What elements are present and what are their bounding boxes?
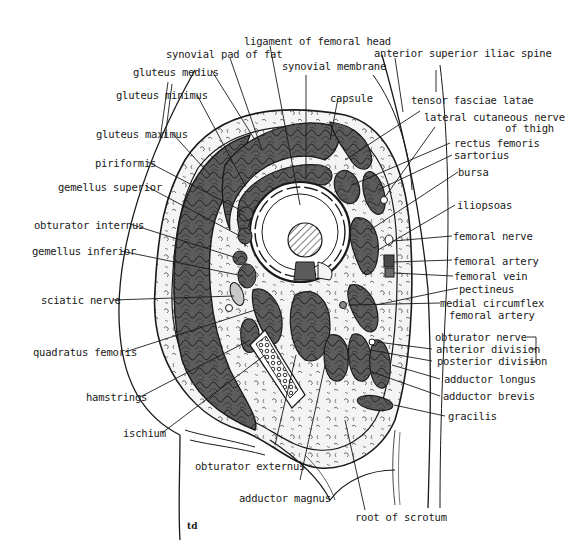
label-sartorius: sartorius	[454, 149, 509, 161]
label-pectineus: pectineus	[459, 283, 514, 295]
label-synovial-pad-of-fat: synovial pad of fat	[166, 48, 282, 60]
label-synovial-membrane: synovial membrane	[282, 60, 386, 72]
label-gluteus-maximus: gluteus maximus	[96, 128, 188, 140]
label-femoral-artery: femoral artery	[453, 255, 539, 267]
anatomy-diagram: ligament of femoral head synovial pad of…	[0, 0, 573, 559]
label-obturator-nerve: obturator nerve	[435, 331, 527, 343]
label-gemellus-superior: gemellus superior	[58, 181, 162, 193]
adductor-magnus-muscle	[324, 335, 348, 382]
label-gluteus-medius: gluteus medius	[133, 66, 219, 78]
label-posterior-division: posterior division	[437, 355, 547, 367]
label-bursa: bursa	[458, 166, 489, 178]
label-medial-circumflex-femoral-artery: femoral artery	[449, 309, 535, 321]
label-capsule: capsule	[330, 92, 373, 104]
label-sciatic-nerve: sciatic nerve	[41, 294, 121, 306]
label-anterior-superior-iliac-spine: anterior superior iliac spine	[374, 47, 552, 59]
label-ischium: ischium	[123, 427, 166, 439]
label-of-thigh: of thigh	[505, 122, 554, 134]
label-adductor-brevis: adductor brevis	[443, 390, 535, 402]
gemellus-inferior-muscle	[238, 264, 256, 288]
label-adductor-magnus: adductor magnus	[239, 492, 331, 504]
label-obturator-externus: obturator externus	[195, 460, 305, 472]
label-medial-circumflex: medial circumflex	[440, 297, 544, 309]
label-quadratus-femoris: quadratus femoris	[33, 346, 137, 358]
gemellus-superior-muscle	[238, 228, 252, 244]
label-root-of-scrotum: root of scrotum	[355, 511, 447, 523]
label-femoral-nerve: femoral nerve	[453, 230, 533, 242]
label-adductor-longus: adductor longus	[444, 373, 536, 385]
label-rectus-femoris: rectus femoris	[454, 137, 540, 149]
piriformis-muscle	[239, 207, 253, 221]
femoral-head	[288, 223, 322, 257]
obturator-internus-muscle	[233, 251, 247, 265]
label-femoral-vein: femoral vein	[454, 270, 527, 282]
label-obturator-internus: obturator internus	[34, 219, 144, 231]
label-hamstrings: hamstrings	[86, 391, 147, 403]
label-gracilis: gracilis	[448, 410, 497, 422]
label-iliopsoas: iliopsoas	[457, 199, 512, 211]
femoral-vein	[385, 268, 394, 277]
label-gemellus-inferior: gemellus inferior	[32, 245, 136, 257]
label-piriformis: piriformis	[95, 157, 156, 169]
label-anterior-division: anterior division	[436, 343, 540, 355]
femoral-artery	[384, 255, 394, 267]
label-tensor-fasciae-latae: tensor fasciae latae	[411, 94, 533, 106]
artist-signature: td	[187, 521, 197, 531]
label-ligament-of-femoral-head: ligament of femoral head	[244, 35, 391, 47]
label-gluteus-minimus: gluteus minimus	[116, 89, 208, 101]
